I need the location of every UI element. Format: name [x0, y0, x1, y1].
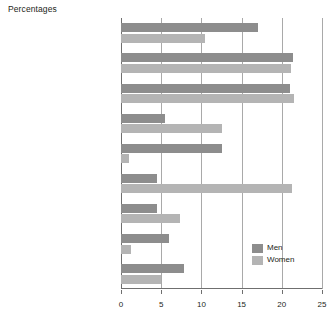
legend-swatch-men-icon: [252, 244, 263, 253]
bar-women: [121, 245, 131, 254]
bar-women: [121, 184, 292, 193]
x-tick-label: 5: [159, 300, 163, 309]
x-tick: [242, 290, 243, 294]
x-tick-label: 15: [237, 300, 246, 309]
bar-men: [121, 84, 290, 93]
bar-men: [121, 264, 184, 273]
table-row: Associate professional and technical: [121, 78, 322, 108]
bar-women: [121, 154, 129, 163]
bar-women: [121, 275, 161, 284]
bar-men: [121, 174, 157, 183]
table-row: Managers and senior officials: [121, 18, 322, 48]
legend-swatch-women-icon: [252, 256, 263, 265]
x-tick-label: 25: [318, 300, 327, 309]
table-row: Personal service: [121, 169, 322, 199]
x-tick: [201, 290, 202, 294]
bar-men: [121, 114, 165, 123]
x-tick-label: 20: [277, 300, 286, 309]
x-tick: [121, 290, 122, 294]
chart-title: Percentages: [8, 4, 57, 14]
x-tick-label: 10: [197, 300, 206, 309]
table-row: Sales and customer service: [121, 199, 322, 229]
x-tick: [322, 290, 323, 294]
bar-men: [121, 23, 258, 32]
bar-women: [121, 94, 294, 103]
x-tick: [282, 290, 283, 294]
legend-label-men: Men: [267, 243, 283, 252]
bar-women: [121, 64, 291, 73]
bar-men: [121, 53, 293, 62]
legend-label-women: Women: [267, 255, 294, 264]
bar-women: [121, 124, 222, 133]
bar-men: [121, 204, 157, 213]
table-row: Administrative and secretarial: [121, 108, 322, 138]
x-tick-label: 0: [119, 300, 123, 309]
gridline: [322, 18, 323, 289]
table-row: Professional occupations: [121, 48, 322, 78]
bar-men: [121, 234, 169, 243]
bar-women: [121, 214, 180, 223]
bar-chart: Percentages 0510152025 Managers and seni…: [0, 0, 334, 312]
bar-men: [121, 144, 222, 153]
plot-area: 0510152025 Managers and senior officials…: [121, 18, 322, 289]
bar-women: [121, 34, 205, 43]
x-tick: [161, 290, 162, 294]
table-row: Skilled trades: [121, 138, 322, 168]
